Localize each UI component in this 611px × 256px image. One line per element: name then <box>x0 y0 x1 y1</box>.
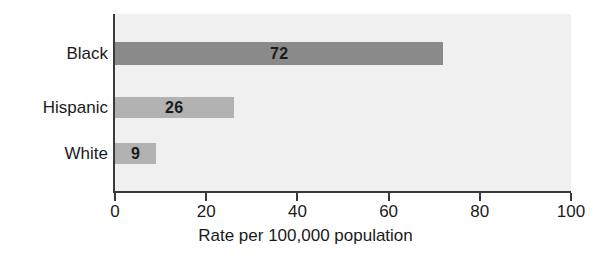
x-tick-label: 0 <box>85 202 145 222</box>
category-label-black: Black <box>0 43 108 65</box>
x-tick-mark <box>114 193 116 201</box>
category-label-white: White <box>0 143 108 165</box>
x-tick-mark <box>570 193 572 201</box>
x-tick-label: 20 <box>176 202 236 222</box>
x-tick-mark <box>205 193 207 201</box>
category-label-hispanic: Hispanic <box>0 97 108 119</box>
x-axis-line <box>113 191 571 193</box>
bar-hispanic: 26 <box>115 97 234 118</box>
x-tick-label: 100 <box>541 202 601 222</box>
bar-value-label: 72 <box>270 45 288 63</box>
bar-value-label: 9 <box>131 145 140 163</box>
category-label-text: White <box>3 143 108 165</box>
x-tick-label: 40 <box>267 202 327 222</box>
x-axis-title: Rate per 100,000 population <box>0 226 611 246</box>
bar-chart: Black Hispanic White 72 26 9 02040608010… <box>0 0 611 256</box>
bar-value-label: 26 <box>165 99 183 117</box>
category-label-text: Black <box>3 43 108 65</box>
x-tick-mark <box>479 193 481 201</box>
x-tick-mark <box>296 193 298 201</box>
bar-white: 9 <box>115 143 156 164</box>
category-label-text: Hispanic <box>3 97 108 119</box>
x-tick-mark <box>388 193 390 201</box>
x-tick-label: 80 <box>450 202 510 222</box>
x-tick-label: 60 <box>359 202 419 222</box>
bar-black: 72 <box>115 42 443 65</box>
